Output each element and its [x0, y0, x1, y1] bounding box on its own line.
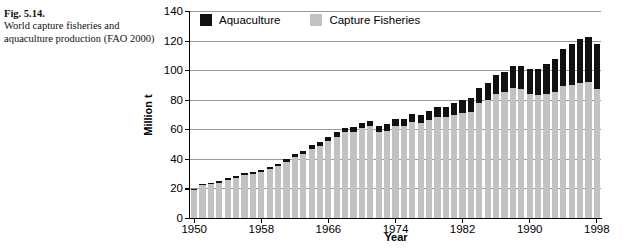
- bar-segment-aquaculture: [535, 69, 541, 96]
- bar-segment-aquaculture: [283, 159, 289, 162]
- bar-segment-capture-fisheries: [275, 166, 281, 218]
- bar-segment-capture-fisheries: [552, 92, 558, 218]
- y-tick-label: 120: [164, 35, 183, 47]
- bar-segment-aquaculture: [418, 115, 424, 124]
- bar-segment-capture-fisheries: [527, 94, 533, 218]
- bar-segment-capture-fisheries: [241, 175, 247, 218]
- x-tick-label: 1950: [181, 223, 207, 235]
- bar-1997: [585, 11, 591, 218]
- bar-segment-aquaculture: [476, 88, 482, 103]
- bar-1968: [342, 11, 348, 218]
- bar-segment-aquaculture: [317, 142, 323, 146]
- bar-segment-capture-fisheries: [476, 103, 482, 218]
- bar-1991: [535, 11, 541, 218]
- bar-segment-aquaculture: [543, 64, 549, 94]
- bar-1955: [233, 11, 239, 218]
- legend-item: Capture Fisheries: [310, 14, 420, 26]
- bar-segment-capture-fisheries: [426, 120, 432, 218]
- bar-segment-capture-fisheries: [560, 86, 566, 218]
- bar-1959: [267, 11, 273, 218]
- bar-segment-aquaculture: [485, 83, 491, 100]
- bar-segment-capture-fisheries: [267, 169, 273, 218]
- x-tick-label: 1982: [450, 223, 476, 235]
- bar-1977: [418, 11, 424, 218]
- bar-1966: [325, 11, 331, 218]
- bar-1994: [560, 11, 566, 218]
- bar-segment-aquaculture: [275, 164, 281, 167]
- bar-segment-capture-fisheries: [510, 88, 516, 218]
- bar-1971: [367, 11, 373, 218]
- y-axis-label: Million t: [142, 94, 154, 136]
- bar-segment-aquaculture: [451, 103, 457, 115]
- bar-segment-capture-fisheries: [543, 94, 549, 218]
- bar-1998: [594, 11, 600, 218]
- bar-1993: [552, 11, 558, 218]
- bar-1996: [577, 11, 583, 218]
- legend-label: Capture Fisheries: [329, 14, 420, 26]
- bar-1986: [493, 11, 499, 218]
- bar-segment-capture-fisheries: [325, 141, 331, 218]
- x-tick-label: 1998: [584, 223, 610, 235]
- bar-1975: [401, 11, 407, 218]
- bar-segment-aquaculture: [434, 107, 440, 117]
- bar-segment-capture-fisheries: [518, 89, 524, 218]
- bar-segment-capture-fisheries: [309, 149, 315, 218]
- y-tick-mark: [185, 100, 190, 101]
- bar-segment-capture-fisheries: [300, 154, 306, 218]
- bar-segment-aquaculture: [225, 178, 231, 179]
- bar-segment-aquaculture: [334, 132, 340, 136]
- bar-segment-aquaculture: [426, 111, 432, 120]
- bar-1982: [459, 11, 465, 218]
- bar-segment-capture-fisheries: [233, 178, 239, 218]
- x-tick-label: 1974: [383, 223, 409, 235]
- bar-segment-aquaculture: [309, 145, 315, 149]
- bar-segment-aquaculture: [233, 176, 239, 178]
- bar-segment-aquaculture: [300, 151, 306, 154]
- bar-segment-capture-fisheries: [342, 132, 348, 218]
- bar-segment-aquaculture: [585, 37, 591, 82]
- bar-1972: [376, 11, 382, 218]
- y-tick-label: 20: [170, 182, 183, 194]
- bar-1969: [350, 11, 356, 218]
- bar-1967: [334, 11, 340, 218]
- y-tick-label: 80: [170, 94, 183, 106]
- y-tick-mark: [185, 41, 190, 42]
- bar-segment-aquaculture: [250, 172, 256, 174]
- y-tick-label: 60: [170, 123, 183, 135]
- bar-segment-aquaculture: [459, 100, 465, 113]
- bar-segment-capture-fisheries: [191, 190, 197, 218]
- bar-segment-capture-fisheries: [459, 113, 465, 218]
- bar-1976: [409, 11, 415, 218]
- bar-segment-aquaculture: [241, 173, 247, 175]
- bar-1984: [476, 11, 482, 218]
- bar-segment-aquaculture: [577, 39, 583, 83]
- x-tick-label: 1990: [517, 223, 543, 235]
- bar-segment-aquaculture: [292, 154, 298, 157]
- bar-segment-aquaculture: [527, 69, 533, 94]
- bar-1950: [191, 11, 197, 218]
- y-tick-label: 140: [164, 5, 183, 17]
- y-tick-mark: [185, 11, 190, 12]
- bar-segment-aquaculture: [199, 184, 205, 185]
- bar-1952: [208, 11, 214, 218]
- bar-1956: [241, 11, 247, 218]
- bar-segment-aquaculture: [493, 75, 499, 94]
- bar-segment-capture-fisheries: [376, 132, 382, 218]
- bar-segment-capture-fisheries: [283, 162, 289, 218]
- y-tick-mark: [185, 129, 190, 130]
- y-tick-mark: [185, 159, 190, 160]
- bar-segment-aquaculture: [518, 66, 524, 90]
- y-tick-label: 40: [170, 153, 183, 165]
- bar-segment-capture-fisheries: [292, 157, 298, 218]
- bar-1970: [359, 11, 365, 218]
- bar-segment-capture-fisheries: [401, 126, 407, 218]
- bar-segment-capture-fisheries: [535, 95, 541, 218]
- bar-1978: [426, 11, 432, 218]
- bar-1980: [443, 11, 449, 218]
- bar-segment-aquaculture: [216, 181, 222, 182]
- bar-1989: [518, 11, 524, 218]
- bar-segment-capture-fisheries: [350, 132, 356, 218]
- bar-segment-aquaculture: [501, 72, 507, 93]
- bar-1964: [309, 11, 315, 218]
- bar-segment-aquaculture: [552, 59, 558, 92]
